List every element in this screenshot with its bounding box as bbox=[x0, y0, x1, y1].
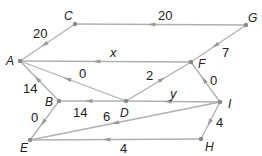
edge-c-a bbox=[20, 24, 75, 61]
edge-weight-label: y bbox=[169, 86, 178, 101]
labels-layer: 20207x020y14140644ABCDEFGHI bbox=[5, 8, 257, 156]
arrowhead-icon bbox=[64, 78, 72, 83]
node-b bbox=[57, 99, 61, 103]
arrowhead-icon bbox=[85, 99, 92, 103]
arrowhead-icon bbox=[212, 42, 219, 48]
arrowhead-icon bbox=[208, 118, 213, 126]
node-e bbox=[28, 138, 32, 142]
edge-weight-label: 4 bbox=[120, 141, 127, 156]
node-label-d: D bbox=[120, 106, 129, 120]
arrowhead-icon bbox=[103, 137, 110, 141]
edge-f-a bbox=[20, 59, 191, 63]
edge-weight-label: 0 bbox=[210, 73, 217, 88]
node-label-g: G bbox=[248, 11, 257, 25]
arrowhead-icon bbox=[93, 59, 100, 63]
edge-d-f bbox=[126, 62, 191, 101]
node-label-a: A bbox=[5, 54, 14, 68]
arrowhead-icon bbox=[41, 41, 48, 47]
network-diagram: 20207x020y14140644ABCDEFGHI bbox=[0, 0, 262, 156]
node-label-i: I bbox=[228, 97, 232, 111]
node-c bbox=[73, 22, 77, 26]
edge-weight-label: 0 bbox=[31, 110, 38, 125]
node-i bbox=[218, 100, 222, 104]
edge-weight-label: 4 bbox=[216, 115, 223, 130]
node-label-b: B bbox=[45, 95, 53, 109]
edge-weight-label: 20 bbox=[158, 8, 172, 23]
arrowhead-icon bbox=[158, 77, 165, 83]
node-label-h: H bbox=[205, 140, 214, 154]
edge-weight-label: 14 bbox=[23, 81, 37, 96]
edge-weight-label: 14 bbox=[73, 105, 87, 120]
edge-weight-label: 20 bbox=[33, 26, 47, 41]
edge-d-b bbox=[59, 99, 126, 103]
edge-weight-label: 6 bbox=[103, 109, 110, 124]
node-h bbox=[199, 137, 203, 141]
node-label-f: F bbox=[198, 57, 206, 71]
edge-weight-label: 2 bbox=[146, 68, 153, 83]
node-d bbox=[124, 99, 128, 103]
edge-weight-label: 0 bbox=[79, 66, 86, 81]
arrowhead-icon bbox=[148, 22, 155, 26]
edge-weight-label: 7 bbox=[222, 45, 229, 60]
edge-g-c bbox=[75, 22, 246, 26]
edge-weight-label: x bbox=[109, 45, 117, 60]
edge-h-e bbox=[30, 137, 201, 141]
arrowhead-icon bbox=[112, 120, 120, 124]
node-label-e: E bbox=[20, 141, 29, 155]
node-label-c: C bbox=[64, 9, 73, 23]
node-a bbox=[18, 59, 22, 63]
node-f bbox=[189, 60, 193, 64]
